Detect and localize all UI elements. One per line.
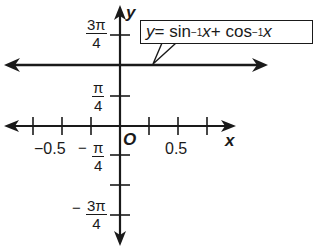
eq-sin: = sin <box>155 22 191 42</box>
y-tick-sign-neg-3pi-4: − <box>72 200 81 215</box>
eq-sup1: −1 <box>191 27 202 38</box>
equation-callout: y = sin −1 x + cos −1 x <box>140 20 313 44</box>
y-axis-label: y <box>126 4 135 21</box>
callout-pointer <box>153 43 176 64</box>
eq-sup2: −1 <box>252 27 263 38</box>
y-tick-label-pi-4: π 4 <box>92 80 104 113</box>
eq-x1: x <box>202 22 211 42</box>
origin-label: O <box>123 131 136 148</box>
eq-cos: + cos <box>211 22 252 42</box>
y-tick-label-neg-3pi-4: 3π 4 <box>86 198 107 231</box>
eq-x2: x <box>263 22 272 42</box>
x-tick-label-neg-half: −0.5 <box>34 141 66 157</box>
y-tick-sign-neg-pi-4: − <box>78 140 87 155</box>
function-line <box>4 58 268 72</box>
x-axis-label: x <box>225 132 234 149</box>
eq-y: y <box>146 22 155 42</box>
y-tick-label-3pi-4: 3π 4 <box>86 17 107 50</box>
x-tick-label-pos-half: 0.5 <box>165 141 187 157</box>
y-tick-label-neg-pi-4: π 4 <box>92 140 104 173</box>
